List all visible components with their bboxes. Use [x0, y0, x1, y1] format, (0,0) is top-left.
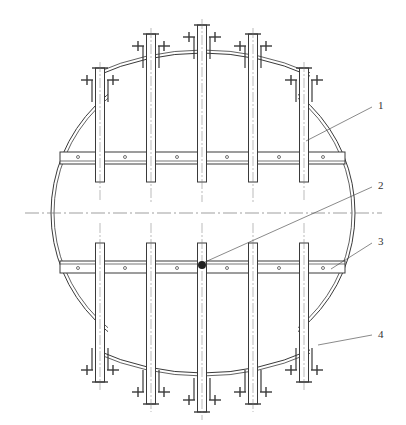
callout-number-3: 3 [378, 235, 384, 247]
leader-line-1 [306, 107, 372, 141]
technical-drawing: 1234 1 2 3 4 [0, 0, 406, 425]
weld-spot [198, 261, 206, 269]
tube-bundle-section-drawing: 1234 [0, 0, 406, 425]
callouts: 1234 [205, 99, 384, 345]
callout-number-1: 1 [378, 99, 384, 111]
callout-number-4: 4 [378, 328, 384, 340]
callout-number-2: 2 [378, 179, 384, 191]
leader-line-4 [318, 335, 372, 345]
